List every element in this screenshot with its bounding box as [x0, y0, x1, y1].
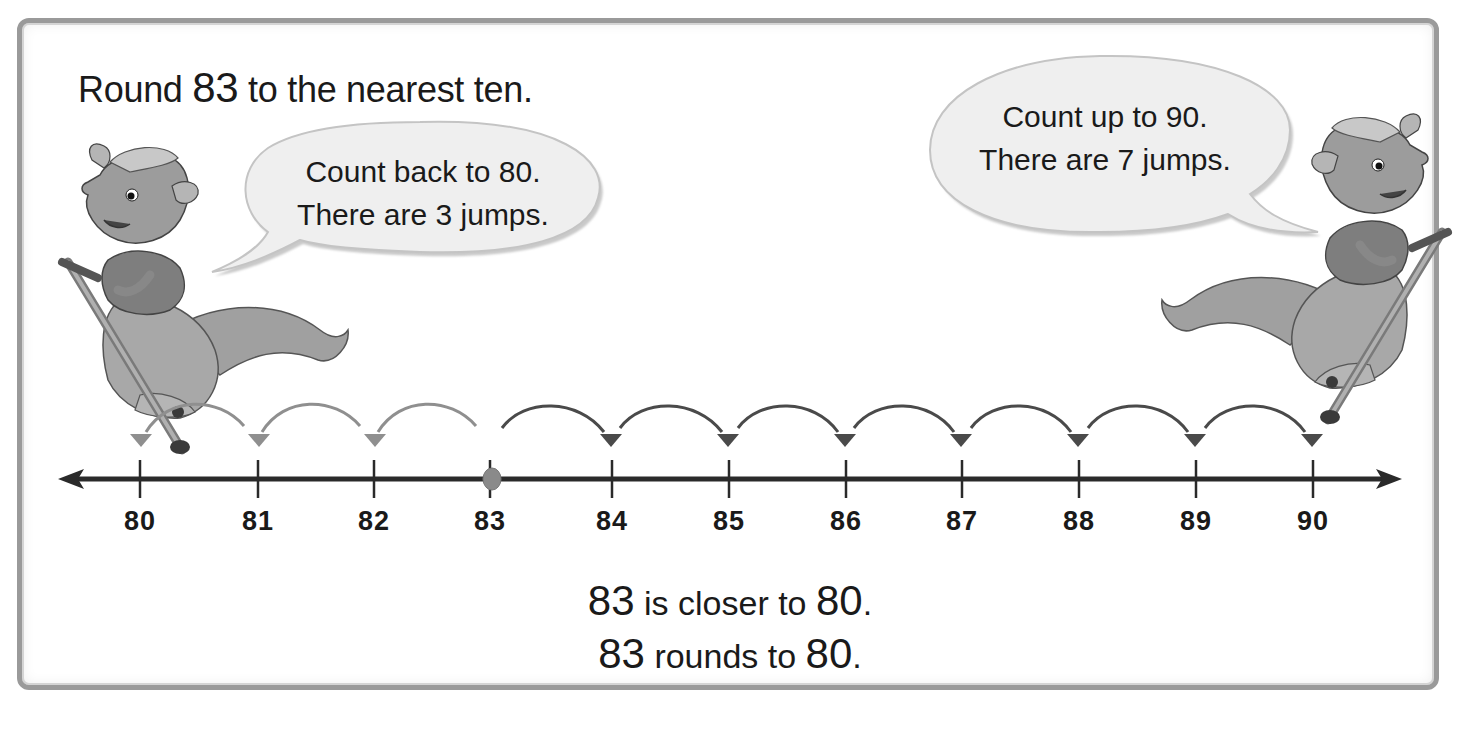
conclusion-2-number: 83 [598, 630, 645, 677]
tick-label-88: 88 [1049, 506, 1109, 537]
conclusion-2-text: rounds to [645, 637, 806, 675]
conclusion-closer: 83 is closer to 80. [0, 577, 1460, 625]
tick-label-89: 89 [1166, 506, 1226, 537]
conclusion-rounds: 83 rounds to 80. [0, 630, 1460, 678]
tick-label-86: 86 [816, 506, 876, 537]
bubble-right-line-2: There are 7 jumps. [945, 138, 1265, 181]
tick-label-85: 85 [699, 506, 759, 537]
bubble-left-line-2: There are 3 jumps. [258, 193, 588, 236]
conclusion-2-target: 80 [806, 630, 853, 677]
speech-bubble-right-text: Count up to 90. There are 7 jumps. [945, 95, 1265, 181]
speech-bubble-left-text: Count back to 80. There are 3 jumps. [258, 150, 588, 236]
conclusion-2-end: . [852, 637, 861, 675]
bubble-left-line-1: Count back to 80. [258, 150, 588, 193]
conclusion-1-text: is closer to [635, 584, 816, 622]
conclusion-1-end: . [863, 584, 872, 622]
number-line [58, 460, 1402, 498]
bubble-right-line-1: Count up to 90. [945, 95, 1265, 138]
tick-label-90: 90 [1283, 506, 1343, 537]
forward-jump-arrows [502, 406, 1305, 432]
tick-label-84: 84 [582, 506, 642, 537]
tick-label-83: 83 [460, 506, 520, 537]
conclusion-1-target: 80 [816, 577, 863, 624]
tick-label-81: 81 [228, 506, 288, 537]
tick-label-80: 80 [110, 506, 170, 537]
tick-label-87: 87 [932, 506, 992, 537]
conclusion-1-number: 83 [588, 577, 635, 624]
forward-jump-arrowheads [600, 434, 1323, 447]
marked-point-83 [483, 468, 501, 490]
tick-label-82: 82 [344, 506, 404, 537]
